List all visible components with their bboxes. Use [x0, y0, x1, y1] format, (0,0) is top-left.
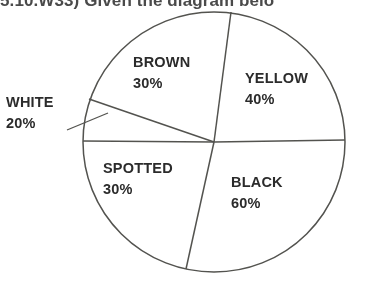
pie-chart-figure [0, 0, 369, 283]
pie-slice-percent-white: 20% [6, 113, 54, 134]
pie-slice-percent-brown: 30% [133, 73, 190, 94]
pie-chart-svg [0, 0, 369, 283]
worksheet-page: 5.10.W33) Given the diagram belo BROWN 3… [0, 0, 369, 283]
white-label-leader-line [67, 113, 108, 130]
pie-slice-label-spotted: SPOTTED 30% [103, 158, 173, 199]
pie-slice-percent-black: 60% [231, 193, 283, 214]
pie-slice-percent-spotted: 30% [103, 179, 173, 200]
slice-divider-white-spotted [83, 141, 214, 142]
slice-divider-white-brown [89, 99, 214, 142]
slice-divider-yellow-black [214, 140, 345, 142]
slice-divider-brown-yellow [214, 12, 231, 142]
pie-slice-name-spotted: SPOTTED [103, 160, 173, 176]
pie-slice-label-white: WHITE 20% [6, 92, 54, 133]
pie-slice-label-brown: BROWN 30% [133, 52, 190, 93]
pie-slice-name-black: BLACK [231, 174, 283, 190]
pie-slice-label-black: BLACK 60% [231, 172, 283, 213]
pie-slice-name-yellow: YELLOW [245, 70, 308, 86]
pie-slice-name-brown: BROWN [133, 54, 190, 70]
pie-slice-percent-yellow: 40% [245, 89, 308, 110]
slice-divider-spotted-black [186, 142, 214, 269]
pie-slice-name-white: WHITE [6, 94, 54, 110]
pie-slice-label-yellow: YELLOW 40% [245, 68, 308, 109]
